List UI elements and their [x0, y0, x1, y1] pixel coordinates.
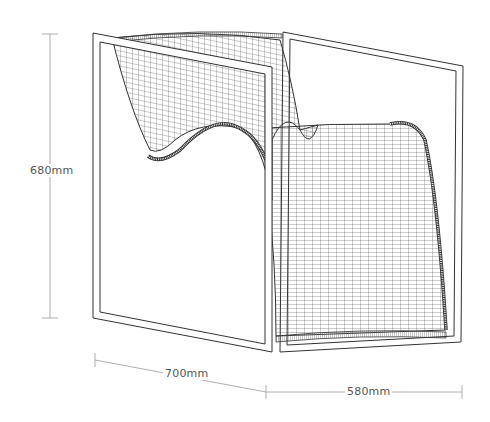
depth-dimension-label: 700mm: [163, 367, 210, 380]
width-dimension-label: 580mm: [345, 385, 392, 398]
chair-diagram: 680mm 700mm 580mm: [0, 0, 490, 422]
height-dimension-label: 680mm: [28, 164, 75, 177]
seat-mesh: [268, 123, 446, 336]
